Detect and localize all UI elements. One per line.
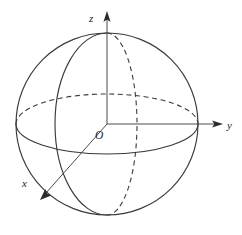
- sphere-diagram-canvas: z y x O: [0, 0, 242, 235]
- origin-label: O: [95, 129, 104, 141]
- z-axis-label: z: [88, 12, 94, 24]
- x-axis-label: x: [21, 177, 27, 189]
- meridian-solid-left-half: [55, 33, 107, 215]
- equator-front-half-solid: [16, 124, 198, 154]
- sphere-diagram-figure: z y x O: [0, 0, 242, 235]
- y-axis-label: y: [226, 119, 232, 131]
